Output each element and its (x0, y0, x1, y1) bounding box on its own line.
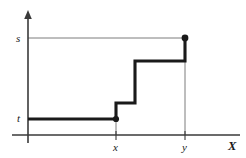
point-y-s-dot (182, 35, 189, 42)
x-tick-label-x: x (113, 142, 118, 153)
plot-canvas (0, 0, 246, 158)
x-tick-label-y: y (182, 142, 187, 153)
y-axis-arrow-icon (24, 10, 32, 19)
step-function-path (28, 38, 185, 119)
y-tick-label-s: s (16, 33, 20, 44)
x-axis-title: X (228, 140, 236, 153)
y-tick-label-t: t (17, 113, 20, 124)
step-function-figure: s t x y X (0, 0, 246, 158)
point-x-t-dot (113, 116, 119, 122)
